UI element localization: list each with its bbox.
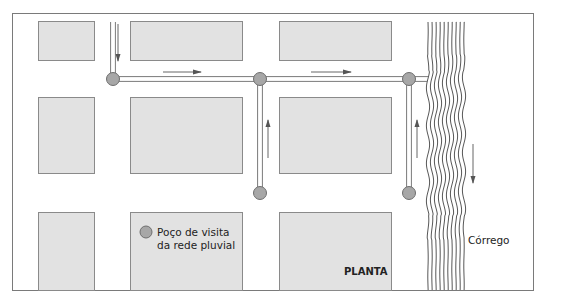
stream-label: Córrego — [468, 234, 510, 246]
block-r2-c3 — [280, 98, 392, 174]
block-r3-c3 — [280, 213, 392, 291]
manhole-3-icon — [403, 73, 416, 86]
block-r1-c1 — [39, 22, 95, 61]
legend-line-2: da rede pluvial — [157, 239, 235, 251]
manhole-5-icon — [403, 187, 416, 200]
legend-manhole-icon — [140, 226, 152, 238]
block-r3-c2 — [131, 213, 243, 291]
legend-line-1: Poço de visita — [157, 226, 229, 238]
storm-drainage-plan-diagram: Poço de visita da rede pluvial PLANTA Có… — [0, 0, 562, 306]
view-label: PLANTA — [344, 266, 388, 277]
block-r2-c2 — [131, 98, 243, 174]
block-r3-c1 — [39, 213, 95, 291]
block-r2-c1 — [39, 98, 95, 174]
manhole-4-icon — [254, 187, 267, 200]
block-r1-c2 — [131, 22, 243, 61]
block-r1-c3 — [280, 22, 392, 61]
manhole-2-icon — [254, 73, 267, 86]
manhole-1-icon — [107, 73, 120, 86]
